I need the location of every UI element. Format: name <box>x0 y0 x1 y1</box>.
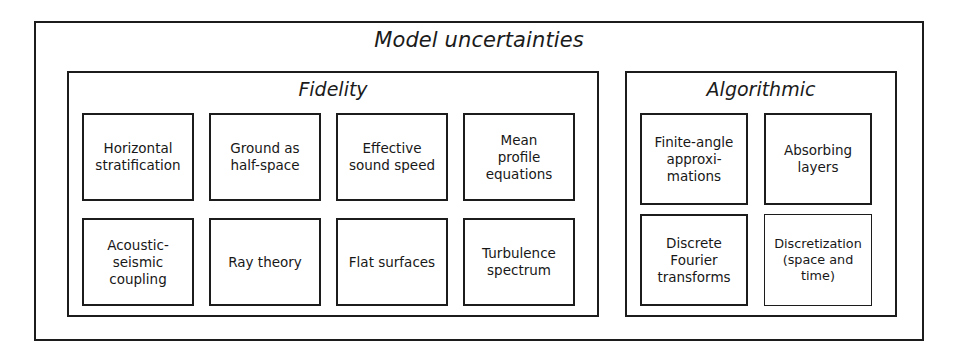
group-fidelity: Fidelity Horizontal stratification Groun… <box>67 71 599 317</box>
box-label: Flat surfaces <box>349 254 435 271</box>
box-label: Horizontal stratification <box>95 140 180 174</box>
box-discretization-space-and-time[interactable]: Discretization (space and time) <box>764 214 872 306</box>
group-algorithmic: Algorithmic Finite-angle approxi- mation… <box>625 71 897 317</box>
fidelity-row-2: Acoustic- seismic coupling Ray theory Fl… <box>82 218 584 306</box>
box-flat-surfaces[interactable]: Flat surfaces <box>336 218 448 306</box>
box-horizontal-stratification[interactable]: Horizontal stratification <box>82 113 194 201</box>
fidelity-box-grid: Horizontal stratification Ground as half… <box>69 113 597 306</box>
group-title-algorithmic: Algorithmic <box>627 77 895 101</box>
algorithmic-row-1: Finite-angle approxi- mations Absorbing … <box>640 113 882 205</box>
outer-frame-model-uncertainties: Model uncertainties Fidelity Horizontal … <box>34 21 924 341</box>
box-ray-theory[interactable]: Ray theory <box>209 218 321 306</box>
box-label: Discretization (space and time) <box>774 236 862 284</box>
algorithmic-box-grid: Finite-angle approxi- mations Absorbing … <box>627 113 895 306</box>
box-effective-sound-speed[interactable]: Effective sound speed <box>336 113 448 201</box>
box-acoustic-seismic-coupling[interactable]: Acoustic- seismic coupling <box>82 218 194 306</box>
box-label: Turbulence spectrum <box>482 245 556 279</box>
box-finite-angle-approximations[interactable]: Finite-angle approxi- mations <box>640 113 748 205</box>
diagram-title: Model uncertainties <box>36 27 922 53</box>
box-discrete-fourier-transforms[interactable]: Discrete Fourier transforms <box>640 214 748 306</box>
box-label: Effective sound speed <box>349 140 435 174</box>
box-absorbing-layers[interactable]: Absorbing layers <box>764 113 872 205</box>
box-ground-as-half-space[interactable]: Ground as half-space <box>209 113 321 201</box>
box-label: Ground as half-space <box>230 140 299 174</box>
box-mean-profile-equations[interactable]: Mean profile equations <box>463 113 575 201</box>
model-uncertainties-diagram: Model uncertainties Fidelity Horizontal … <box>0 0 958 360</box>
box-label: Acoustic- seismic coupling <box>107 237 169 288</box>
box-label: Absorbing layers <box>784 142 852 176</box>
box-label: Finite-angle approxi- mations <box>655 134 734 185</box>
box-turbulence-spectrum[interactable]: Turbulence spectrum <box>463 218 575 306</box>
algorithmic-row-2: Discrete Fourier transforms Discretizati… <box>640 214 882 306</box>
group-title-fidelity: Fidelity <box>69 77 597 101</box>
box-label: Discrete Fourier transforms <box>657 235 730 286</box>
box-label: Ray theory <box>228 254 302 271</box>
fidelity-row-1: Horizontal stratification Ground as half… <box>82 113 584 201</box>
box-label: Mean profile equations <box>486 132 553 183</box>
